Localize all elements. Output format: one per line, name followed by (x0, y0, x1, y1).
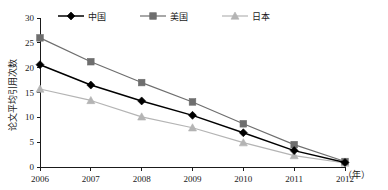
line-chart: 中国美国日本 051015202530 20062007200820092010… (0, 0, 388, 190)
data-point-square (240, 120, 247, 127)
y-tick-label: 25 (25, 38, 35, 48)
legend-label: 日本 (252, 11, 270, 22)
series-japan (36, 85, 349, 166)
data-point-diamond (138, 97, 146, 105)
data-point-square (150, 13, 157, 20)
y-tick-label: 30 (25, 13, 35, 23)
data-point-square (138, 79, 145, 86)
y-axis-title: 论文平均引用次数 (7, 59, 18, 131)
legend-item-usa[interactable]: 美国 (140, 11, 188, 22)
x-tick-label: 2010 (234, 174, 253, 184)
data-point-square (88, 58, 95, 65)
y-tick-label: 15 (25, 88, 35, 98)
x-axis: 2006200720082009201020112012 (31, 167, 354, 184)
legend-item-japan[interactable]: 日本 (222, 11, 270, 22)
y-tick-label: 10 (25, 112, 35, 122)
data-point-diamond (189, 111, 197, 119)
x-tick-label: 2011 (285, 174, 303, 184)
y-tick-label: 0 (30, 162, 35, 172)
data-point-diamond (87, 81, 95, 89)
data-point-diamond (67, 12, 75, 20)
chart-legend: 中国美国日本 (58, 11, 270, 22)
data-point-square (189, 99, 196, 106)
x-tick-label: 2007 (82, 174, 101, 184)
data-point-square (37, 35, 44, 42)
series-usa (37, 35, 349, 165)
x-tick-label: 2008 (133, 174, 152, 184)
legend-item-china[interactable]: 中国 (58, 11, 106, 22)
legend-label: 中国 (88, 11, 106, 22)
y-tick-label: 20 (25, 63, 35, 73)
series-layer (36, 35, 349, 167)
series-china (36, 61, 349, 167)
data-point-triangle (36, 85, 44, 92)
x-axis-unit-label: （年） (343, 169, 370, 180)
x-tick-label: 2006 (31, 174, 50, 184)
legend-label: 美国 (170, 11, 188, 22)
data-point-diamond (239, 129, 247, 137)
y-tick-label: 5 (30, 137, 35, 147)
x-tick-label: 2009 (184, 174, 203, 184)
y-axis-title-text: 论文平均引用次数 (7, 59, 18, 131)
chart-container: 中国美国日本 051015202530 20062007200820092010… (0, 0, 388, 190)
